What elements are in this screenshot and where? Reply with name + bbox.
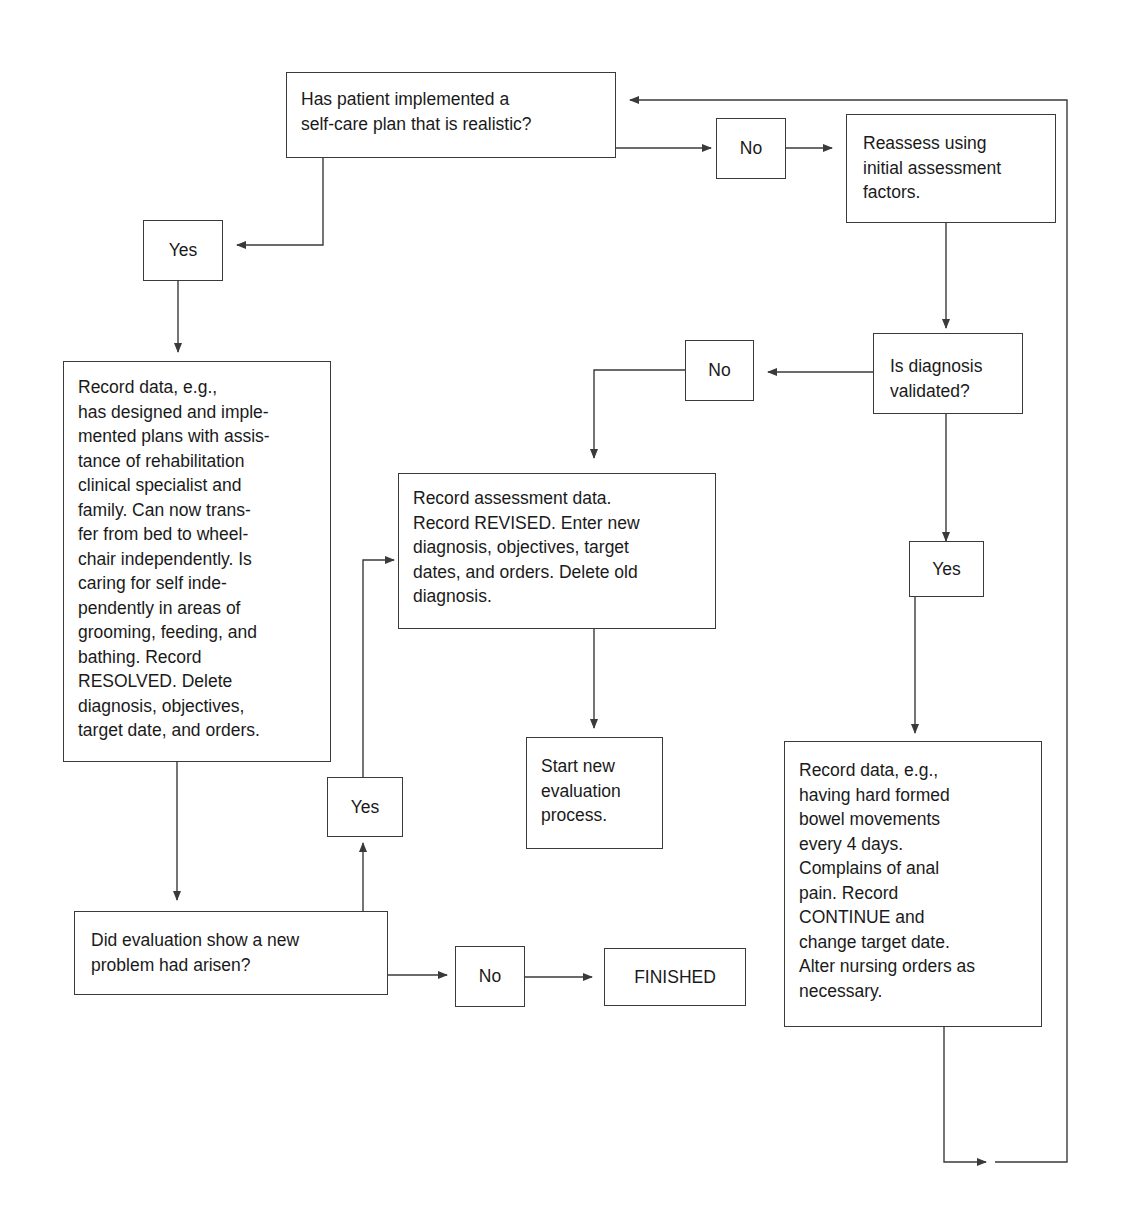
node-text: Has patient implemented a self-care plan… <box>301 87 601 136</box>
node-text: Record data, e.g., has designed and impl… <box>78 375 316 743</box>
node-text: Start new evaluation process. <box>541 754 648 828</box>
label-no-2: No <box>685 340 754 401</box>
decision-new-problem: Did evaluation show a new problem had ar… <box>74 911 388 995</box>
label-yes-2: Yes <box>909 541 984 597</box>
node-text: Reassess using initial assessment factor… <box>863 131 1039 205</box>
decision-diagnosis-validated: Is diagnosis validated? <box>873 333 1023 414</box>
process-record-continue: Record data, e.g., having hard formed bo… <box>784 741 1042 1027</box>
flowchart-canvas: Has patient implemented a self-care plan… <box>0 0 1128 1220</box>
label-no-3: No <box>455 946 525 1007</box>
process-record-resolved: Record data, e.g., has designed and impl… <box>63 361 331 762</box>
process-record-revised: Record assessment data. Record REVISED. … <box>398 473 716 629</box>
node-text: Is diagnosis validated? <box>890 354 1006 403</box>
label-yes-3: Yes <box>327 777 403 837</box>
process-start-new-evaluation: Start new evaluation process. <box>526 737 663 849</box>
node-text: Record data, e.g., having hard formed bo… <box>799 758 1027 1003</box>
node-text: Record assessment data. Record REVISED. … <box>413 486 701 609</box>
terminal-finished: FINISHED <box>604 948 746 1006</box>
node-text: Did evaluation show a new problem had ar… <box>91 928 371 977</box>
label-yes-1: Yes <box>143 220 223 281</box>
process-reassess: Reassess using initial assessment factor… <box>846 114 1056 223</box>
label-no-1: No <box>716 118 786 179</box>
decision-self-care-plan: Has patient implemented a self-care plan… <box>286 72 616 158</box>
